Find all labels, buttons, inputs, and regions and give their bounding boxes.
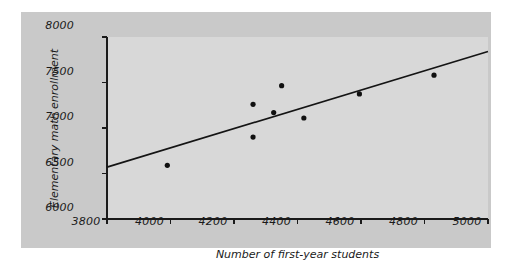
data-point [279,83,284,88]
y-axis-title: Elementary math enrollment [48,38,61,220]
figure-canvas: 60006500700075008000 3800400042004400460… [21,12,491,248]
y-tick-label: 6000 [0,201,74,214]
y-tick-label: 7500 [0,64,74,77]
data-point [250,135,255,140]
axes-group [107,37,488,219]
x-tick-label: 4200 [199,215,228,228]
y-tick-label: 6500 [0,155,74,168]
trend-line-group [107,52,488,168]
x-tick-label: 4000 [135,215,164,228]
y-tick-label: 8000 [0,19,74,32]
data-point [301,115,306,120]
scatter-chart-figure: 60006500700075008000 3800400042004400460… [0,0,514,267]
y-tick-label: 7000 [0,110,74,123]
data-point [165,163,170,168]
data-points-group [165,73,437,168]
x-tick-label: 5000 [453,215,482,228]
data-point [271,110,276,115]
data-point [357,91,362,96]
x-tick-label: 4400 [262,215,291,228]
data-point [431,73,436,78]
x-tick-marks [107,219,488,224]
x-tick-label: 4600 [326,215,355,228]
x-tick-label: 3800 [72,215,101,228]
chart-svg-layer [21,12,514,267]
x-axis-title: Number of first-year students [107,248,488,261]
regression-line [107,52,488,168]
data-point [250,102,255,107]
y-tick-marks [102,37,107,219]
x-tick-label: 4800 [389,215,418,228]
